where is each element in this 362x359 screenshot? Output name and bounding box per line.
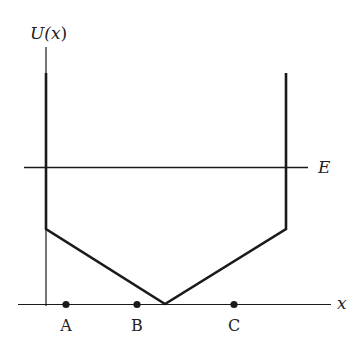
energy-label: E [317, 157, 331, 177]
diagram-canvas: U(x) x E A B C [0, 0, 362, 359]
point-c-label: C [228, 316, 240, 335]
potential-energy-diagram: U(x) x E A B C [0, 0, 362, 359]
x-axis-label: x [337, 293, 347, 313]
point-b-marker [133, 301, 140, 308]
potential-curve [46, 73, 286, 304]
point-a-marker [62, 301, 69, 308]
point-a-label: A [59, 316, 72, 335]
point-b-label: B [131, 316, 143, 335]
y-axis-label: U(x) [30, 23, 67, 43]
point-c-marker [230, 301, 237, 308]
